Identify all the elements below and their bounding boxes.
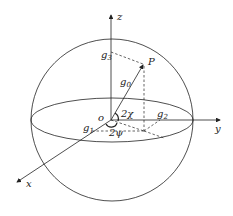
x-axis-label: x xyxy=(26,178,32,189)
origin-label: o xyxy=(98,112,104,123)
psi-angle-label: 2ψ xyxy=(108,127,123,138)
point-p-label: P xyxy=(147,56,155,67)
chi-angle-label: 2χ xyxy=(120,108,134,119)
g0-label: g0 xyxy=(120,76,131,89)
x-axis xyxy=(17,120,111,182)
g1-label: g1 xyxy=(83,122,94,135)
g2-label: g2 xyxy=(157,108,168,121)
y-axis-label: y xyxy=(214,123,221,134)
z-axis-label: z xyxy=(116,11,123,22)
poincare-sphere-diagram: z y x o P g3 g0 g2 g1 2χ 2ψ xyxy=(0,0,233,216)
